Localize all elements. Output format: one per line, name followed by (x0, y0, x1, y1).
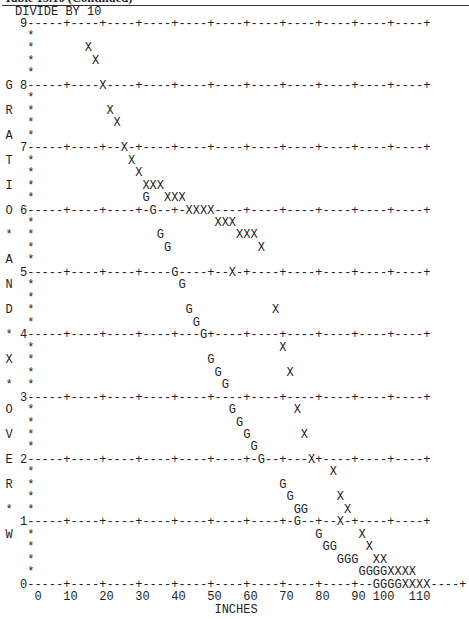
plot-row: A * (6, 254, 467, 266)
plot-row: * * G (6, 379, 467, 391)
plot-row: * G X (6, 242, 467, 254)
plot-row: * GGGGXXXX (6, 566, 467, 578)
plot-row: * (6, 92, 467, 104)
plot-row: X * G (6, 354, 467, 366)
x-axis-title: INCHES (6, 604, 258, 617)
plot-row: * X (6, 117, 467, 129)
plot-row: * X (6, 55, 467, 67)
plot-row: * X (6, 466, 467, 478)
grid-line: * 4-----+----+----+----+---G+----+----+-… (6, 329, 467, 341)
ascii-scatter-plot: 9-----+----+----+----+----+----+----+---… (6, 18, 467, 592)
grid-line: 7-----+----+--X-+----+----+----+----+---… (6, 142, 467, 154)
plot-row: * (6, 67, 467, 79)
plot-row: * GG X (6, 541, 467, 553)
grid-line: 9-----+----+----+----+----+----+----+---… (6, 18, 467, 30)
plot-row: O * G X (6, 404, 467, 416)
plot-row: * G X (6, 491, 467, 503)
plot-row: * G XXX (6, 192, 467, 204)
plot-row: * X (6, 167, 467, 179)
plot-row: D * G X (6, 304, 467, 316)
grid-line: G 8-----+----X----+----+----+----+----+-… (6, 80, 467, 92)
grid-line: 1-----+----+----+----+----+----+----+-G-… (6, 516, 467, 528)
plot-row: N * G (6, 279, 467, 291)
